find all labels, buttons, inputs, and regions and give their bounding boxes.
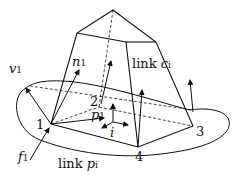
- link-c-label: link ci: [132, 57, 171, 70]
- link-p-outline: [17, 81, 230, 156]
- n1-label: n1: [72, 55, 86, 68]
- link-c-frustum: [51, 10, 193, 147]
- link-p-label: link pi: [58, 157, 98, 170]
- vertex-4-label: 4: [135, 150, 143, 163]
- v1-label: v1: [9, 62, 22, 75]
- force-vectors: [26, 61, 193, 160]
- contact-diagram: v1 n1 link ci 2 p1 1 i 3 4 f1 link pi: [0, 0, 243, 183]
- vertex-3-label: 3: [196, 125, 204, 138]
- i-label: i: [110, 126, 114, 139]
- p1-label: p1: [91, 108, 105, 121]
- f1-label: f1: [18, 150, 29, 163]
- diagram-graphics: [0, 0, 243, 183]
- vertex-1-label: 1: [36, 118, 44, 131]
